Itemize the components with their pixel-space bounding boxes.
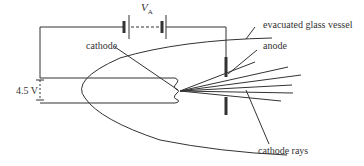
- va-subscript: A: [148, 8, 153, 16]
- va-label: VA: [141, 2, 153, 16]
- glass-vessel-pointer: [246, 27, 255, 39]
- evacuated-glass-vessel-label: evacuated glass vessel: [263, 20, 352, 30]
- va-circuit-wire: [40, 27, 124, 78]
- cathode-ray-tube-diagram: VA cathode evacuated glass vessel anode …: [0, 0, 364, 166]
- glass-vessel: [82, 38, 287, 155]
- cathode-filament: [174, 78, 178, 103]
- cathode-rays-label: cathode rays: [258, 146, 308, 156]
- va-circuit-wire-right: [166, 27, 226, 70]
- heater-voltage-label: 4.5 V: [16, 86, 38, 96]
- cathode-label: cathode: [86, 41, 117, 51]
- cathode-rays-pointer: [246, 90, 269, 144]
- va-symbol: V: [141, 1, 148, 13]
- cathode-pointer: [115, 47, 178, 90]
- anode-label: anode: [263, 41, 287, 51]
- cathode-rays: [180, 62, 301, 101]
